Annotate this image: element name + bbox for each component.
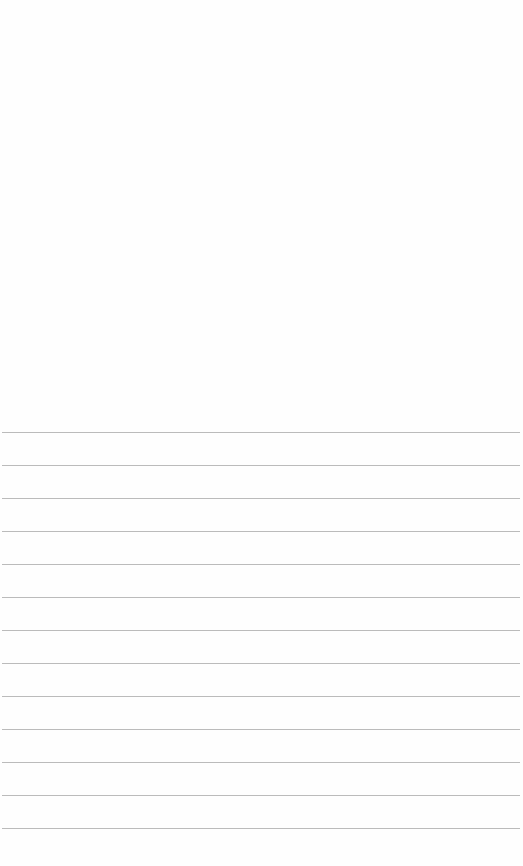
ruled-line: [2, 465, 520, 466]
ruled-line: [2, 828, 520, 829]
ruled-line: [2, 498, 520, 499]
ruled-lines-area: [0, 0, 523, 866]
ruled-line: [2, 630, 520, 631]
ruled-line: [2, 663, 520, 664]
lined-paper-page: [0, 0, 523, 866]
ruled-line: [2, 795, 520, 796]
ruled-line: [2, 564, 520, 565]
ruled-line: [2, 531, 520, 532]
ruled-line: [2, 729, 520, 730]
ruled-line: [2, 432, 520, 433]
ruled-line: [2, 696, 520, 697]
ruled-line: [2, 597, 520, 598]
ruled-line: [2, 762, 520, 763]
